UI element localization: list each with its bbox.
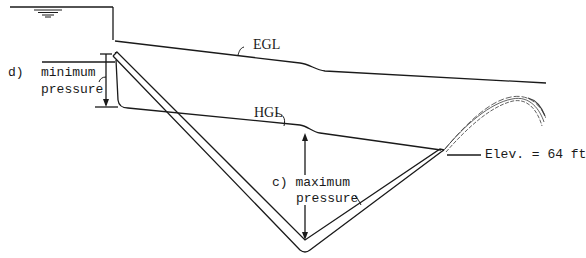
max-pressure-arrowhead-up-icon (302, 133, 308, 141)
min-pressure-label-line2: pressure (41, 83, 103, 97)
water-surface-icon (34, 10, 62, 17)
max-pressure-label-line1: c) maximum (272, 176, 350, 190)
min-pressure-tag: d) (8, 66, 24, 80)
elevation-label: Elev. = 64 ft (485, 148, 586, 162)
egl-line (115, 41, 546, 83)
hgl-label: HGL (254, 106, 283, 120)
max-pressure-label-line2: pressure (296, 192, 358, 206)
egl-label: EGL (253, 38, 280, 52)
min-pressure-arrowhead-icon (103, 99, 109, 107)
pipe-outer-wall (113, 56, 441, 252)
pipe-inner-wall (115, 52, 444, 240)
min-pressure-label-line1: minimum (41, 66, 96, 80)
water-jet (444, 96, 546, 152)
egl-leader (238, 47, 244, 55)
